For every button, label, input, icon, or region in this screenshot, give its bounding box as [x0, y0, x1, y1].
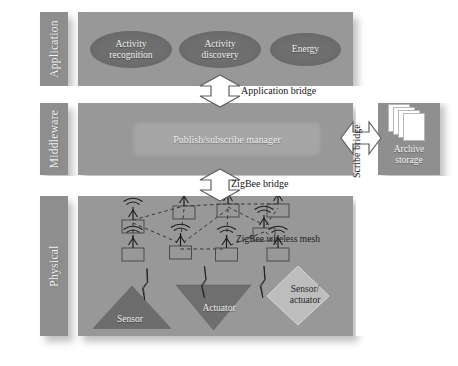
bridge-arrow-application[interactable] [197, 74, 243, 108]
bridge-label-zigbee: ZigBee bridge [231, 178, 288, 189]
archive-storage-label: Archive storage [378, 144, 440, 166]
device-sensor-shape[interactable] [93, 286, 171, 329]
component-activity-recognition-line1: Activity [109, 39, 152, 50]
layer-side-label-application: Application [40, 12, 68, 86]
physical-devices [93, 266, 329, 330]
layer-side-label-physical-text: Physical [48, 245, 60, 286]
device-sensor-actuator-shape[interactable] [267, 266, 329, 325]
layer-side-label-application-text: Application [48, 20, 60, 78]
archive-storage-line2: storage [378, 155, 440, 166]
device-actuator-shape[interactable] [176, 285, 251, 330]
bridge-label-application: Application bridge [241, 85, 316, 96]
mesh-node-4[interactable] [267, 196, 289, 217]
component-energy[interactable]: Energy [270, 33, 341, 66]
layer-side-label-middleware: Middleware [40, 103, 68, 175]
archive-storage-line1: Archive [378, 144, 440, 155]
component-activity-recognition-line2: recognition [109, 50, 152, 61]
component-activity-discovery-line1: Activity [202, 39, 239, 50]
bridge-label-scribe: Scribe bridge [351, 124, 362, 178]
component-publish-subscribe-manager-label: Publish/subscribe manager [173, 134, 280, 145]
layer-panel-physical: ZigBee wireless mesh Sensor Actuator Sen… [78, 196, 353, 336]
component-activity-discovery-line2: discovery [202, 50, 239, 61]
architecture-diagram: Application Activity recognition Activit… [0, 0, 458, 366]
mesh-node-6[interactable] [170, 224, 192, 259]
component-activity-recognition[interactable]: Activity recognition [90, 31, 172, 68]
layer-side-label-physical: Physical [40, 196, 68, 336]
component-publish-subscribe-manager[interactable]: Publish/subscribe manager [132, 121, 322, 157]
zigbee-wireless-mesh-label: ZigBee wireless mesh [236, 234, 320, 244]
zigbee-wireless-mesh [78, 196, 353, 336]
layer-side-label-middleware-text: Middleware [48, 110, 60, 169]
layer-panel-middleware: Publish/subscribe manager [78, 103, 353, 175]
archive-storage-block[interactable]: Archive storage [378, 99, 440, 175]
mesh-nodes [122, 196, 289, 261]
component-energy-label: Energy [292, 44, 319, 55]
stacked-pages-icon [388, 104, 430, 142]
mesh-node-7[interactable] [216, 226, 238, 261]
component-activity-discovery[interactable]: Activity discovery [179, 31, 261, 68]
lightning-bolt-icon-3 [257, 266, 271, 298]
mesh-node-2[interactable] [173, 196, 195, 219]
